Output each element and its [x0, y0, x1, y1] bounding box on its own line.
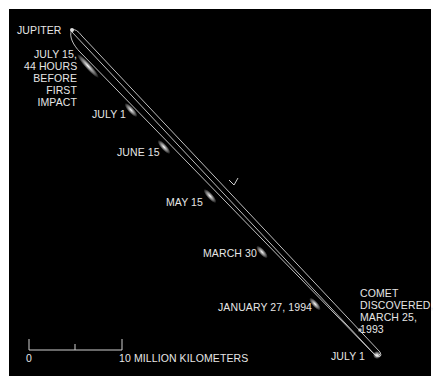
label-july1-bottom: JULY 1: [331, 350, 365, 362]
label-jupiter: JUPITER: [17, 24, 61, 36]
label-june15: JUNE 15: [117, 146, 160, 158]
label-jan27: JANUARY 27, 1994: [218, 301, 312, 313]
scale-zero-label: 0: [26, 352, 32, 364]
label-july15: JULY 15, 44 HOURS BEFORE FIRST IMPACT: [24, 48, 77, 108]
position-july1-perijove: [373, 351, 381, 359]
label-may15: MAY 15: [166, 196, 203, 208]
position-may15: [202, 187, 219, 204]
jupiter-point: [70, 28, 74, 32]
scale-end-label: 10 MILLION KILOMETERS: [119, 352, 248, 364]
label-march30: MARCH 30: [203, 247, 257, 259]
position-july15: [75, 52, 101, 80]
label-july1: JULY 1: [92, 108, 126, 120]
label-discovered: COMET DISCOVERED, MARCH 25, 1993: [360, 287, 433, 335]
scale-bar: [29, 339, 122, 350]
chevron-arrow-icon: [229, 178, 238, 185]
